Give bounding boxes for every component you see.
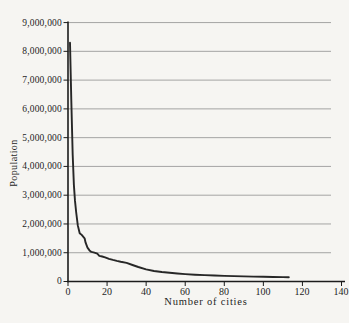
y-tick-label-8: 8,000,000 bbox=[0, 45, 62, 57]
population-rank-curve bbox=[70, 43, 289, 278]
y-tick-label-7: 7,000,000 bbox=[0, 74, 62, 86]
y-tick-label-9: 9,000,000 bbox=[0, 17, 62, 29]
y-tick-label-1: 1,000,000 bbox=[0, 247, 62, 259]
x-axis-title: Number of cities bbox=[68, 296, 344, 307]
y-tick-label-2: 2,000,000 bbox=[0, 218, 62, 230]
y-axis-title: Population bbox=[8, 139, 19, 186]
y-tick-label-3: 3,000,000 bbox=[0, 189, 62, 201]
y-tick-label-6: 6,000,000 bbox=[0, 103, 62, 115]
rank-size-chart: 9,000,000 8,000,000 7,000,000 6,000,000 … bbox=[0, 0, 349, 323]
